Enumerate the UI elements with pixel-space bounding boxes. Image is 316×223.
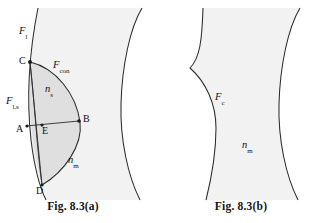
point-label-a: A — [16, 124, 23, 134]
label-n-m-a: nm — [68, 155, 79, 166]
label-f-con: Fcon — [53, 60, 70, 71]
medium-region-b — [190, 8, 300, 200]
figure-root: Fl Fcon Fl,s ns nm C B A E D Fig. 8.3(a) — [0, 0, 316, 223]
label-f-c: Fc — [215, 92, 225, 103]
label-f-ls: Fl,s — [6, 96, 19, 107]
figure-caption-b: Fig. 8.3(b) — [162, 200, 316, 212]
point-a-marker — [25, 124, 28, 127]
label-n-s: ns — [45, 84, 53, 95]
figure-panel-b: Fc nm Fig. 8.3(b) — [158, 0, 316, 223]
point-label-e: E — [42, 126, 48, 136]
point-label-b: B — [83, 114, 90, 124]
point-label-d: D — [36, 186, 43, 196]
figure-panel-a: Fl Fcon Fl,s ns nm C B A E D Fig. 8.3(a) — [0, 0, 158, 223]
panel-b-drawing — [158, 0, 316, 223]
label-f-l: Fl — [19, 26, 27, 37]
label-n-m-b: nm — [242, 140, 253, 151]
point-label-c: C — [19, 56, 26, 66]
point-b-marker — [77, 119, 81, 123]
figure-caption-a: Fig. 8.3(a) — [0, 200, 152, 212]
point-c-marker — [28, 60, 32, 64]
